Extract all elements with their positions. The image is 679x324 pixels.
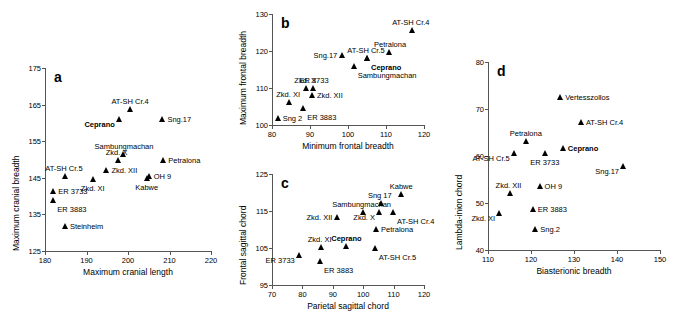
data-point[interactable]	[511, 150, 517, 156]
data-point[interactable]	[530, 206, 536, 212]
data-point-label: ER 3883	[538, 204, 567, 213]
x-tick-label-d-1: 120	[525, 255, 538, 264]
data-point-label: Ceprano	[568, 144, 598, 153]
y-tick-label-d-1: 50	[462, 199, 484, 208]
x-tick-label-d-3: 140	[611, 255, 624, 264]
y-tick-d-3	[485, 109, 488, 110]
x-tick-label-d-0: 110	[482, 255, 494, 264]
x-tick-label-d-4: 150	[654, 255, 667, 264]
data-point[interactable]	[542, 150, 548, 156]
data-point[interactable]	[532, 226, 538, 232]
data-point[interactable]	[578, 119, 584, 125]
y-axis-title-d: Lambda-inion chord	[454, 175, 464, 250]
data-point-label: Sng.2	[540, 224, 560, 233]
x-tick-d-0	[488, 251, 489, 254]
x-tick-label-d-2: 130	[568, 255, 581, 264]
data-point-label: AT-SH Cr.5	[472, 153, 509, 162]
data-point[interactable]	[496, 210, 502, 216]
data-point-label: Zkd. XII	[496, 181, 522, 190]
x-tick-d-2	[574, 251, 575, 254]
x-tick-d-1	[531, 251, 532, 254]
x-axis-title-d: Biasterionic breadth	[536, 266, 611, 276]
y-tick-d-4	[485, 62, 488, 63]
data-point[interactable]	[523, 138, 529, 144]
panel-d: 4050607080110120130140150Biasterionic br…	[0, 0, 679, 324]
data-point[interactable]	[557, 94, 563, 100]
y-tick-label-d-4: 80	[462, 58, 484, 67]
panel-letter-d: d	[497, 63, 506, 79]
y-tick-d-1	[485, 203, 488, 204]
x-tick-d-4	[660, 251, 661, 254]
data-point-label: AT-SH Cr.4	[586, 118, 623, 127]
data-point-label: Vertesszollos	[565, 92, 609, 101]
data-point[interactable]	[620, 163, 626, 169]
data-point-label: OH 9	[545, 181, 563, 190]
x-tick-d-3	[617, 251, 618, 254]
data-point[interactable]	[560, 145, 566, 151]
data-point-label: ER 3733	[530, 158, 559, 167]
data-point-label: Sng.17	[595, 167, 619, 176]
y-tick-label-d-3: 70	[462, 105, 484, 114]
data-point-label: Petralona	[510, 129, 542, 138]
data-point[interactable]	[507, 190, 513, 196]
data-point[interactable]	[537, 183, 543, 189]
data-point-label: Zkd. XI	[471, 214, 495, 223]
y-tick-label-d-0: 40	[462, 246, 484, 255]
